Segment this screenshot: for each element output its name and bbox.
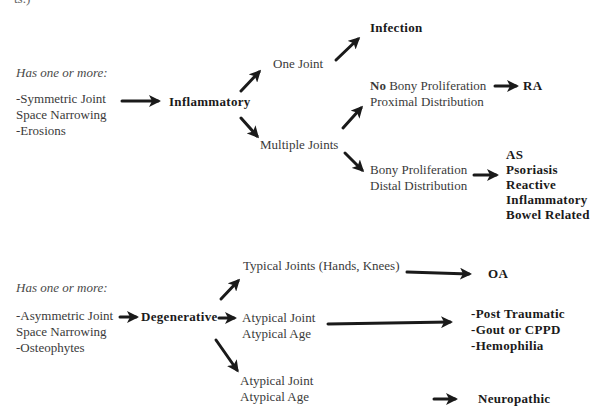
degenerative-criteria-heading: Has one or more: bbox=[16, 280, 108, 296]
no-emphasis: No bbox=[370, 78, 386, 93]
arrow-multiple-to-no-bony bbox=[343, 108, 361, 128]
condition-line: Distal Distribution bbox=[370, 178, 467, 194]
criteria-item: Space Narrowing bbox=[16, 107, 107, 123]
condition-line: Atypical Joint bbox=[242, 310, 315, 326]
category-degenerative: Degenerative bbox=[141, 309, 218, 325]
arrow-multiple-to-bony bbox=[345, 153, 362, 170]
degenerative-criteria-list: -Asymmetric Joint Space Narrowing -Osteo… bbox=[16, 308, 113, 356]
condition-line: Atypical Age bbox=[240, 389, 313, 405]
condition-line: Bony Proliferation bbox=[370, 162, 467, 178]
branch-typical-joints: Typical Joints (Hands, Knees) bbox=[243, 258, 400, 274]
result-oa: OA bbox=[488, 266, 508, 282]
branch-multiple-joints: Multiple Joints bbox=[260, 137, 338, 153]
branch-atypical-2: Atypical Joint Atypical Age bbox=[240, 373, 313, 405]
criteria-item: -Symmetric Joint bbox=[16, 91, 107, 107]
result-item: Bowel Related bbox=[506, 207, 590, 222]
condition-line: Atypical Age bbox=[242, 326, 315, 342]
condition-no-bony-proliferation: No Bony Proliferation Proximal Distribut… bbox=[370, 78, 486, 110]
result-ra: RA bbox=[523, 78, 542, 94]
branch-atypical-1: Atypical Joint Atypical Age bbox=[242, 310, 315, 342]
arrow-one-joint-to-infection bbox=[336, 39, 358, 60]
condition-line: Atypical Joint bbox=[240, 373, 313, 389]
result-item: -Post Traumatic bbox=[471, 306, 565, 322]
arrow-degenerative-to-atypical2 bbox=[216, 340, 237, 370]
result-item: -Gout or CPPD bbox=[471, 322, 565, 338]
condition-bony-proliferation: Bony Proliferation Distal Distribution bbox=[370, 162, 467, 194]
branch-one-joint: One Joint bbox=[273, 56, 323, 72]
inflammatory-criteria-heading: Has one or more: bbox=[16, 65, 108, 81]
criteria-item: Space Narrowing bbox=[16, 324, 113, 340]
arrow-degenerative-to-typical bbox=[221, 281, 238, 299]
results-atypical-1: -Post Traumatic -Gout or CPPD -Hemophili… bbox=[471, 306, 565, 354]
inflammatory-criteria-list: -Symmetric Joint Space Narrowing -Erosio… bbox=[16, 91, 107, 139]
criteria-item: -Asymmetric Joint bbox=[16, 308, 113, 324]
arrow-typical-to-oa bbox=[407, 272, 469, 274]
condition-line: Proximal Distribution bbox=[370, 94, 486, 110]
result-item: AS bbox=[506, 147, 590, 162]
result-item: -Hemophilia bbox=[471, 338, 565, 354]
result-item: Psoriasis bbox=[506, 162, 590, 177]
results-spondyloarthropathies: AS Psoriasis Reactive Inflammatory Bowel… bbox=[506, 147, 590, 222]
criteria-item: -Erosions bbox=[16, 123, 107, 139]
arrow-inflammatory-to-one-joint bbox=[241, 72, 259, 91]
result-item: Reactive bbox=[506, 177, 590, 192]
result-neuropathic: Neuropathic bbox=[478, 391, 550, 407]
criteria-item: -Osteophytes bbox=[16, 340, 113, 356]
arrow-inflammatory-to-multiple bbox=[241, 118, 257, 136]
arrow-atypical1-to-results bbox=[328, 322, 450, 324]
condition-line: Bony Proliferation bbox=[386, 78, 486, 93]
result-infection: Infection bbox=[370, 20, 423, 36]
result-item: Inflammatory bbox=[506, 192, 590, 207]
category-inflammatory: Inflammatory bbox=[169, 94, 251, 110]
